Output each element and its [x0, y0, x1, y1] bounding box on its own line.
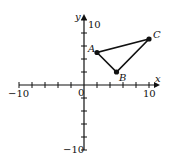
x-max-label: 10: [143, 88, 156, 99]
x-min-label: −10: [8, 88, 29, 99]
x-axis-label: x: [155, 73, 161, 84]
origin-label: 0: [78, 87, 84, 98]
y-axis-label: y: [74, 11, 81, 22]
y-min-label: −10: [63, 144, 84, 155]
label-c: C: [153, 29, 161, 40]
label-a: A: [87, 43, 95, 54]
label-b: B: [118, 72, 126, 83]
coordinate-plane: A B C x y 0 −10 10 10 −10: [0, 0, 170, 166]
triangle-abc: [97, 39, 149, 72]
point-c: [146, 36, 151, 41]
y-max-label: 10: [88, 19, 101, 30]
y-axis-arrow-icon: [81, 14, 87, 20]
